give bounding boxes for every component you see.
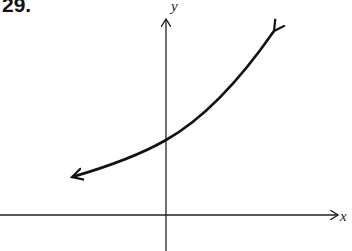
x-axis-label: x (339, 208, 347, 224)
graph: x y (0, 0, 352, 251)
y-axis-label: y (169, 0, 178, 14)
exponential-curve (72, 31, 274, 177)
